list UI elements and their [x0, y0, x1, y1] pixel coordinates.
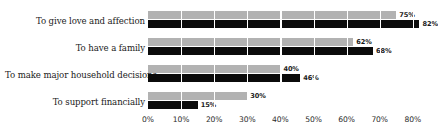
x-axis-tick-label: 40%: [272, 115, 289, 124]
bar-gray[interactable]: [148, 65, 280, 73]
bar-value-label: 68%: [376, 47, 391, 55]
bar-value-label: 15%: [201, 101, 216, 109]
bar-black[interactable]: [148, 20, 419, 28]
category-label: To support financially: [5, 97, 145, 107]
bar-value-label: 46%: [303, 74, 318, 82]
category-label: To give love and affection: [5, 16, 145, 26]
category-label: To make major household decisions: [5, 70, 145, 80]
x-axis-tick-label: 60%: [338, 115, 355, 124]
x-axis-tick-label: 10%: [173, 115, 190, 124]
bar-black[interactable]: [148, 74, 300, 82]
x-axis-tick-label: 80%: [405, 115, 422, 124]
bar-value-label: 75%: [399, 11, 414, 19]
bar-black[interactable]: [148, 101, 198, 109]
bar-gray[interactable]: [148, 92, 247, 100]
bar-value-label: 82%: [422, 20, 437, 28]
bar-value-label: 62%: [356, 38, 371, 46]
bar-gray[interactable]: [148, 38, 353, 46]
category-label: To have a family: [5, 43, 145, 53]
bar-black[interactable]: [148, 47, 373, 55]
bar-gray[interactable]: [148, 11, 396, 19]
x-axis-tick-label: 20%: [206, 115, 223, 124]
x-axis-tick-label: 50%: [305, 115, 322, 124]
x-axis-tick-label: 70%: [371, 115, 388, 124]
x-axis-tick-label: 0%: [142, 115, 154, 124]
bar-value-label: 40%: [283, 65, 298, 73]
x-axis: 0%10%20%30%40%50%60%70%80%: [148, 115, 413, 129]
x-axis-tick-label: 30%: [239, 115, 256, 124]
bar-value-label: 30%: [250, 92, 265, 100]
